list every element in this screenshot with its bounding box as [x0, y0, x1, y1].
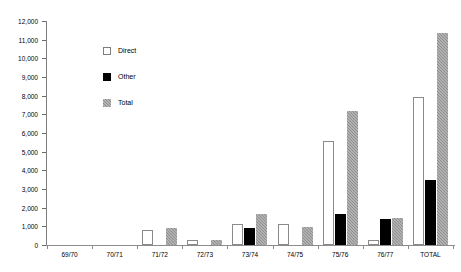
x-axis-tick-mark [182, 245, 183, 249]
legend-item-label: Other [118, 73, 136, 81]
bar-direct [142, 230, 153, 245]
bar-direct [278, 224, 289, 245]
y-axis: 01,0002,0003,0004,0005,0006,0007,0008,00… [0, 0, 46, 272]
bar-other [244, 228, 255, 245]
bar-group [182, 21, 227, 245]
x-axis-line [46, 245, 455, 246]
bar-group-bars [273, 21, 318, 245]
bar-direct [413, 97, 424, 245]
x-axis-category-label: 75/76 [318, 251, 363, 259]
x-axis-category-label: 76/77 [363, 251, 408, 259]
y-axis-tick-label: 5,000 [22, 148, 38, 155]
legend-swatch-direct-icon [103, 47, 111, 55]
bar-direct [368, 240, 379, 245]
legend-item-label: Total [118, 99, 133, 107]
y-axis-tick-label: 2,000 [22, 204, 38, 211]
y-axis-tick-label: 3,000 [22, 186, 38, 193]
legend-item: Other [103, 72, 183, 82]
bar-chart: 01,0002,0003,0004,0005,0006,0007,0008,00… [0, 0, 461, 272]
bar-group-bars [182, 21, 227, 245]
x-axis-tick-mark [408, 245, 409, 249]
bar-direct [323, 141, 334, 245]
legend-item: Total [103, 98, 183, 108]
bar-total [256, 214, 267, 245]
y-axis-tick-label: 1,000 [22, 223, 38, 230]
bar-group [408, 21, 453, 245]
x-axis-category-label: 71/72 [137, 251, 182, 259]
bar-group [227, 21, 272, 245]
y-axis-tick-label: 8,000 [22, 92, 38, 99]
bar-direct [232, 224, 243, 245]
x-axis-category-label: TOTAL [408, 251, 453, 259]
x-axis-tick-mark [47, 245, 48, 249]
bar-other [380, 219, 391, 245]
y-axis-tick-label: 12,000 [18, 18, 38, 25]
chart-legend: DirectOtherTotal [103, 46, 183, 124]
bar-total [347, 111, 358, 245]
bar-other [335, 214, 346, 245]
bar-total [166, 228, 177, 245]
y-axis-tick-label: 6,000 [22, 130, 38, 137]
bar-group [273, 21, 318, 245]
y-axis-tick-label: 11,000 [19, 36, 38, 43]
y-axis-tick-label: 0 [34, 242, 38, 249]
bar-total [211, 240, 222, 245]
bar-total [302, 227, 313, 245]
x-axis-category-label: 70/71 [92, 251, 137, 259]
y-axis-tick-label: 7,000 [22, 111, 38, 118]
x-axis-category-label: 72/73 [182, 251, 227, 259]
x-axis-tick-mark [363, 245, 364, 249]
x-axis-tick-mark [137, 245, 138, 249]
bar-group-bars [227, 21, 272, 245]
y-axis-tick-label: 9,000 [22, 74, 38, 81]
x-axis-category-label: 69/70 [47, 251, 92, 259]
x-axis-category-label: 73/74 [227, 251, 272, 259]
bar-group [318, 21, 363, 245]
legend-item-label: Direct [118, 47, 136, 55]
bar-total [392, 218, 403, 245]
legend-swatch-total-icon [103, 99, 111, 107]
x-axis-tick-mark [318, 245, 319, 249]
bar-group [363, 21, 408, 245]
x-axis-tick-mark [273, 245, 274, 249]
y-axis-tick-label: 10,000 [18, 55, 38, 62]
bar-other [425, 180, 436, 245]
bar-total [437, 33, 448, 245]
x-axis-tick-mark [227, 245, 228, 249]
y-axis-tick-label: 4,000 [22, 167, 38, 174]
bar-group-bars [318, 21, 363, 245]
x-axis-category-label: 74/75 [273, 251, 318, 259]
bar-group [47, 21, 92, 245]
bar-direct [187, 240, 198, 245]
bar-group-bars [47, 21, 92, 245]
legend-item: Direct [103, 46, 183, 56]
x-axis-tick-mark [92, 245, 93, 249]
bar-group-bars [363, 21, 408, 245]
x-axis-tick-mark [453, 245, 454, 249]
bar-group-bars [408, 21, 453, 245]
legend-swatch-other-icon [103, 73, 111, 81]
